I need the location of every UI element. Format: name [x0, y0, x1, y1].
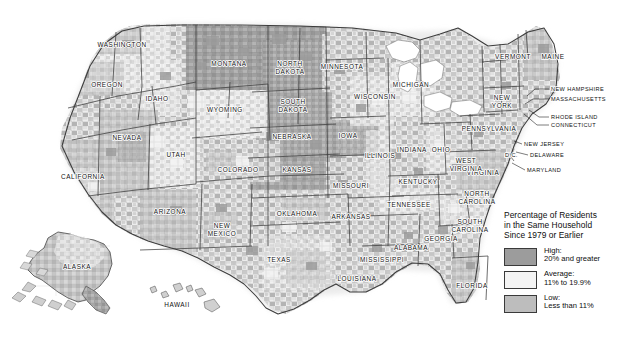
- state-label-south-dakota: SOUTHDAKOTA: [278, 98, 307, 113]
- state-label-texas: TEXAS: [267, 256, 291, 263]
- legend-swatch-low: [504, 295, 537, 313]
- state-label-illinois: ILLINOIS: [365, 152, 396, 159]
- state-label-california: CALIFORNIA: [61, 173, 105, 180]
- state-label-georgia: GEORGIA: [424, 235, 458, 242]
- state-label-alabama: ALABAMA: [394, 244, 428, 251]
- state-label-ohio: OHIO: [432, 146, 451, 153]
- state-label-florida: FLORIDA: [456, 282, 488, 289]
- state-label-wisconsin: WISCONSIN: [354, 93, 396, 100]
- state-label-idaho: IDAHO: [146, 95, 169, 102]
- state-label-arkansas: ARKANSAS: [331, 213, 370, 220]
- callout-label-massachusetts: MASSACHUSETTS: [551, 96, 606, 102]
- legend-range-average: 11% to 19.9%: [544, 279, 591, 288]
- state-label-minnesota: MINNESOTA: [321, 63, 364, 70]
- callout-label-d-c-: D.C.: [505, 152, 518, 158]
- state-label-wyoming: WYOMING: [207, 106, 243, 113]
- legend-title-line-2: in the Same Household: [504, 220, 592, 230]
- state-label-missouri: MISSOURI: [333, 182, 369, 189]
- legend-range-low: Less than 11%: [544, 302, 594, 311]
- legend-range-high: 20% and greater: [544, 255, 600, 264]
- legend-title: Percentage of Residents in the Same Hous…: [504, 210, 634, 241]
- state-label-maine: MAINE: [542, 53, 565, 60]
- state-label-oregon: OREGON: [91, 81, 123, 88]
- state-label-pennsylvania: PENNSYLVANIA: [462, 125, 517, 132]
- callout-label-new-jersey: NEW JERSEY: [524, 141, 564, 147]
- map-figure: WASHINGTONOREGONIDAHOMONTANAWYOMINGNEVAD…: [0, 0, 634, 362]
- state-label-nevada: NEVADA: [112, 134, 141, 141]
- state-label-kentucky: KENTUCKY: [398, 178, 437, 185]
- callout-label-delaware: DELAWARE: [530, 152, 564, 158]
- legend-swatch-high: [504, 248, 537, 266]
- map-legend: Percentage of Residents in the Same Hous…: [504, 210, 634, 317]
- state-label-tennessee: TENNESSEE: [387, 201, 431, 208]
- state-label-mississippi: MISSISSIPPI: [360, 256, 404, 263]
- state-label-washington: WASHINGTON: [97, 41, 146, 48]
- state-label-north-dakota: NORTHDAKOTA: [275, 60, 304, 75]
- state-label-utah: UTAH: [166, 151, 185, 158]
- legend-title-line-1: Percentage of Residents: [504, 210, 597, 220]
- state-label-hawaii: HAWAII: [164, 301, 190, 308]
- state-label-iowa: IOWA: [338, 132, 357, 139]
- state-label-alaska: ALASKA: [63, 263, 91, 270]
- callout-label-connecticut: CONNECTICUT: [551, 122, 596, 128]
- state-label-indiana: INDIANA: [397, 146, 427, 153]
- state-label-new-york: NEWYORK: [492, 94, 512, 109]
- state-label-nebraska: NEBRASKA: [272, 133, 311, 140]
- callout-label-new-hampshire: NEW HAMPSHIRE: [551, 86, 604, 92]
- state-label-arizona: ARIZONA: [154, 208, 186, 215]
- callout-label-maryland: MARYLAND: [527, 167, 561, 173]
- state-label-michigan: MICHIGAN: [393, 81, 429, 88]
- state-label-oklahoma: OKLAHOMA: [277, 210, 318, 217]
- legend-title-line-3: Since 1979 or Earlier: [504, 230, 583, 240]
- state-label-colorado: COLORADO: [218, 166, 259, 173]
- state-label-kansas: KANSAS: [282, 166, 311, 173]
- state-label-vermont: VERMONT: [495, 53, 531, 60]
- callout-label-rhode-island: RHODE ISLAND: [551, 114, 598, 120]
- legend-entry-average: Average: 11% to 19.9%: [504, 270, 634, 289]
- state-label-louisiana: LOUISIANA: [337, 275, 376, 282]
- legend-swatch-average: [504, 271, 537, 289]
- legend-entry-high: High: 20% and greater: [504, 247, 634, 266]
- legend-entry-low: Low: Less than 11%: [504, 294, 634, 313]
- state-label-montana: MONTANA: [211, 60, 247, 67]
